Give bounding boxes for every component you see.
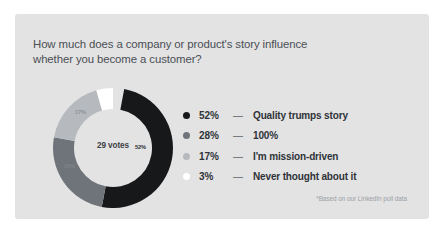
donut-slice-label-28: 28% xyxy=(64,163,75,169)
legend-percent: 52% xyxy=(199,110,233,121)
legend-percent: 17% xyxy=(199,151,233,162)
legend-item: 3% — Never thought about it xyxy=(183,167,421,188)
donut-slice-label-17: 17% xyxy=(75,109,86,115)
legend-option-label: 100% xyxy=(253,130,278,141)
legend-item: 52% — Quality trumps story xyxy=(183,105,421,126)
page-root: How much does a company or product's sto… xyxy=(0,0,444,233)
legend-item: 17% — I'm mission-driven xyxy=(183,146,421,167)
chart-legend: 52% — Quality trumps story 28% — 100% 17… xyxy=(183,105,421,187)
legend-color-swatch-icon xyxy=(183,153,190,160)
legend-dash: — xyxy=(233,130,253,141)
source-footnote: *Based on our LinkedIn poll data xyxy=(316,195,407,202)
legend-option-label: I'm mission-driven xyxy=(253,151,338,162)
page-title: How much does a company or product's sto… xyxy=(33,37,373,66)
legend-dash: — xyxy=(233,151,253,162)
legend-color-swatch-icon xyxy=(183,112,190,119)
legend-percent: 3% xyxy=(199,171,233,182)
legend-color-swatch-icon xyxy=(183,173,190,180)
donut-chart: 29 votes 52% 17% 28% xyxy=(51,88,175,208)
poll-result-card: How much does a company or product's sto… xyxy=(15,14,429,219)
legend-option-label: Never thought about it xyxy=(253,171,356,182)
legend-color-swatch-icon xyxy=(183,132,190,139)
donut-slice-label-52: 52% xyxy=(135,144,146,150)
legend-item: 28% — 100% xyxy=(183,126,421,147)
donut-center-label: 29 votes xyxy=(51,141,175,150)
legend-dash: — xyxy=(233,110,253,121)
legend-percent: 28% xyxy=(199,130,233,141)
legend-option-label: Quality trumps story xyxy=(253,110,348,121)
legend-dash: — xyxy=(233,171,253,182)
donut-slice-17 xyxy=(54,90,102,141)
